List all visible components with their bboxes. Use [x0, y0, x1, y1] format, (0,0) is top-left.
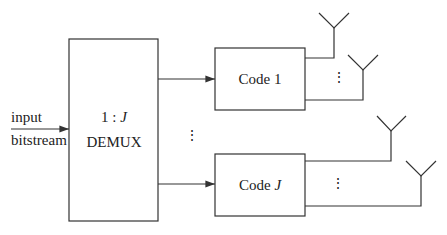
- antenna-icon: [377, 116, 406, 131]
- antenna-icon: [406, 161, 436, 176]
- antenna-feed: [305, 176, 421, 206]
- demux-ratio-label: 1 : J: [101, 110, 127, 125]
- antenna-feed: [305, 131, 391, 161]
- demux-label: DEMUX: [87, 135, 142, 150]
- ellipsis-encoders: ⋮: [185, 133, 191, 139]
- ellipsis-antennas-j: ⋮: [331, 181, 337, 187]
- ratio-prefix: 1 :: [101, 109, 120, 125]
- bitstream-label: bitstream: [11, 133, 67, 148]
- diagram-canvas: [0, 0, 447, 235]
- demux-box: [69, 39, 158, 221]
- code-index: J: [274, 177, 281, 193]
- code-prefix: Code: [239, 177, 274, 193]
- antenna-feed: [305, 28, 334, 58]
- input-label: input: [11, 110, 42, 125]
- code-1-label: Code 1: [239, 72, 282, 87]
- antenna-icon: [319, 13, 349, 28]
- antenna-icon: [348, 55, 378, 70]
- ratio-var: J: [120, 109, 127, 125]
- code-index: 1: [274, 71, 282, 87]
- ellipsis-antennas-1: ⋮: [332, 75, 338, 81]
- code-j-label: Code J: [239, 178, 281, 193]
- code-prefix: Code: [239, 71, 274, 87]
